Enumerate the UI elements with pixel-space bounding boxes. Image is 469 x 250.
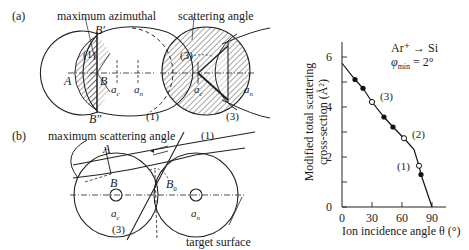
filled-data-point <box>352 77 357 82</box>
filled-data-point <box>360 86 365 91</box>
legend-ion-target: Ar⁺ → Si <box>391 42 438 54</box>
point-label: (1) <box>397 160 410 173</box>
open-data-point <box>401 136 406 141</box>
x-tick-label: 0 <box>339 211 345 225</box>
point-label: (2) <box>412 128 425 141</box>
y-axis-label: Modified total scattering cross-section … <box>302 42 330 202</box>
chart-plot-area: 02460306090(3)(2)(1) <box>0 0 469 250</box>
filled-data-point <box>418 172 423 177</box>
y-tick-label: 0 <box>326 200 332 214</box>
x-tick-label: 60 <box>396 211 408 225</box>
open-data-point <box>416 163 421 168</box>
filled-data-point <box>390 124 395 129</box>
x-tick-label: 90 <box>426 211 438 225</box>
open-data-point <box>369 99 374 104</box>
filled-data-point <box>381 114 386 119</box>
point-label: (3) <box>380 90 393 103</box>
legend-phi-min: φmin = 2° <box>391 56 434 71</box>
x-tick-label: 30 <box>366 211 378 225</box>
x-axis-label: Ion incidence angle θ (°) <box>342 225 461 237</box>
